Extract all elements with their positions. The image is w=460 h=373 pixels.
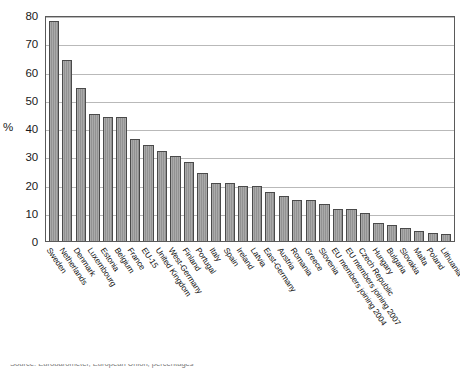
x-label-slot: United Kingdom xyxy=(155,243,169,363)
x-label-slot: Lithuania xyxy=(440,243,454,363)
y-axis-tick-label: 80 xyxy=(26,10,38,22)
bar xyxy=(400,228,410,241)
x-label-slot: Poland xyxy=(427,243,441,363)
bar-slot xyxy=(88,17,102,241)
y-axis-tick-label: 20 xyxy=(26,180,38,192)
y-axis-tick-labels: 01020304050607080 xyxy=(0,16,42,242)
bar-slot xyxy=(115,17,129,241)
bar xyxy=(373,223,383,241)
x-label-slot: France xyxy=(128,243,142,363)
bar xyxy=(225,183,235,241)
y-axis-tick-label: 40 xyxy=(26,123,38,135)
bar xyxy=(428,233,438,241)
y-axis-tick-label: 10 xyxy=(26,208,38,220)
bar xyxy=(157,151,167,241)
x-label-slot: West-Germany xyxy=(168,243,182,363)
x-label-slot: Bulgaria xyxy=(386,243,400,363)
bar xyxy=(103,117,113,241)
x-label-slot: Denmark xyxy=(73,243,87,363)
bar xyxy=(170,156,180,241)
bar-slot xyxy=(61,17,75,241)
x-label-slot: EU-15 xyxy=(141,243,155,363)
y-axis-tick-label: 70 xyxy=(26,38,38,50)
x-label-slot: EU members joining 2004 xyxy=(331,243,345,363)
x-label-slot: Finland xyxy=(182,243,196,363)
x-label-slot: Netherlands xyxy=(60,243,74,363)
bar-slot xyxy=(250,17,264,241)
x-label-slot: Portugal xyxy=(196,243,210,363)
bar xyxy=(414,231,424,241)
bar-slot xyxy=(426,17,440,241)
y-axis-tick-label: 60 xyxy=(26,67,38,79)
bar xyxy=(306,200,316,241)
y-axis-tick-label: 50 xyxy=(26,95,38,107)
bar-slot xyxy=(412,17,426,241)
bar xyxy=(49,21,59,241)
bar-slot xyxy=(182,17,196,241)
x-label-slot: Romania xyxy=(291,243,305,363)
x-label-slot: Luxembourg xyxy=(87,243,101,363)
bar-slot xyxy=(196,17,210,241)
bar xyxy=(143,145,153,241)
plot-area xyxy=(45,16,455,242)
bar xyxy=(292,200,302,241)
bar xyxy=(387,225,397,241)
bar xyxy=(197,173,207,241)
x-label-slot: Czech Republic xyxy=(359,243,373,363)
bar-slot xyxy=(74,17,88,241)
bar-slot xyxy=(291,17,305,241)
bar-slot xyxy=(277,17,291,241)
bar-slot xyxy=(372,17,386,241)
x-label-slot: Latvia xyxy=(250,243,264,363)
bar xyxy=(279,196,289,241)
bar-slot xyxy=(101,17,115,241)
x-label-slot: Malta xyxy=(413,243,427,363)
bar-slot xyxy=(304,17,318,241)
bar xyxy=(116,117,126,241)
bar-slot xyxy=(47,17,61,241)
bar-slot xyxy=(128,17,142,241)
bar-series xyxy=(46,17,454,241)
x-label-slot: Ireland xyxy=(236,243,250,363)
x-label-slot: East-Germany xyxy=(264,243,278,363)
chart-page: % 01020304050607080 SwedenNetherlandsDen… xyxy=(0,0,460,373)
bar-slot xyxy=(142,17,156,241)
bar xyxy=(62,60,72,241)
bar-slot xyxy=(345,17,359,241)
bar xyxy=(211,183,221,241)
x-axis-category-labels: SwedenNetherlandsDenmarkLuxembourgEstoni… xyxy=(45,243,455,363)
bar-slot xyxy=(439,17,453,241)
x-label-slot: Sweden xyxy=(46,243,60,363)
bar-slot xyxy=(318,17,332,241)
bar xyxy=(76,88,86,241)
bar-slot xyxy=(155,17,169,241)
x-label-slot: EU members joining 2007 xyxy=(345,243,359,363)
bar xyxy=(333,209,343,241)
bar-slot xyxy=(399,17,413,241)
x-label-slot: Slovenia xyxy=(318,243,332,363)
bar-slot xyxy=(209,17,223,241)
bar xyxy=(89,114,99,241)
bar xyxy=(184,162,194,241)
bar xyxy=(441,234,451,241)
bar-slot xyxy=(264,17,278,241)
bar xyxy=(319,204,329,241)
x-label-slot: Austria xyxy=(277,243,291,363)
bar xyxy=(346,209,356,241)
bar-slot xyxy=(169,17,183,241)
bar xyxy=(130,139,140,241)
bar xyxy=(265,192,275,241)
bar-slot xyxy=(236,17,250,241)
x-label-slot: Hungary xyxy=(372,243,386,363)
bar-slot xyxy=(223,17,237,241)
bar xyxy=(238,186,248,241)
bar-slot xyxy=(358,17,372,241)
bar xyxy=(360,213,370,241)
x-label-slot: Slovakia xyxy=(399,243,413,363)
x-label-slot: Spain xyxy=(223,243,237,363)
bar-slot xyxy=(385,17,399,241)
y-axis-tick-label: 30 xyxy=(26,151,38,163)
x-label-slot: Estonia xyxy=(100,243,114,363)
bar-slot xyxy=(331,17,345,241)
x-label-slot: Belgium xyxy=(114,243,128,363)
